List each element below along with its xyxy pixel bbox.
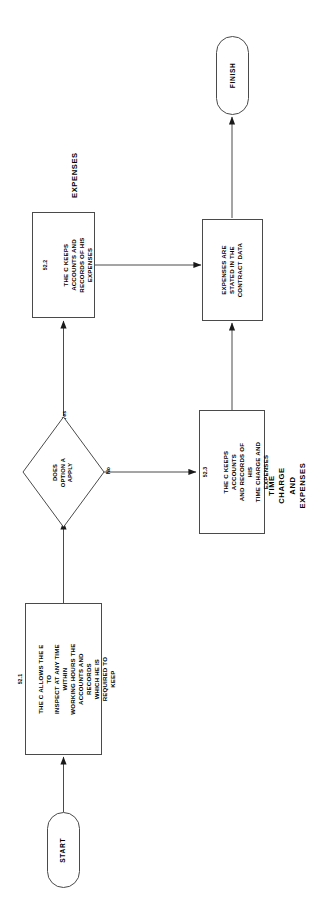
annotation-expenses: EXPENSES [40,140,110,210]
node-step-52-1[interactable]: 52.1 THE C ALLOWS THE E TO INSPECT AT AN… [25,603,102,755]
node-finish-label: FINISH [228,63,237,89]
node-step-52-1-text: 52.1 THE C ALLOWS THE E TO INSPECT AT AN… [9,641,117,716]
node-step-52-3[interactable]: 52.3 THE C KEEPS ACCOUNTS AND RECORDS OF… [199,410,265,534]
flowchart-canvas: FINISH EXPENSES 52.2 THE C KEEPS ACCOUNT… [0,0,315,913]
node-start[interactable]: START [47,812,80,888]
decision-label-wrap: DOES OPTION A APPLY [22,416,105,528]
annotation-expenses-text: EXPENSES [70,152,80,198]
node-finish[interactable]: FINISH [216,36,249,115]
node-step-52-2-text: 52.2 THE C KEEPS ACCOUNTS AND RECORDS OF… [33,237,93,292]
node-step-52-3-text: 52.3 THE C KEEPS ACCOUNTS AND RECORDS OF… [194,440,270,504]
node-step-52-1-body: THE C ALLOWS THE E TO INSPECT AT ANY TIM… [37,643,116,714]
node-step-52-2-body: THE C KEEPS ACCOUNTS AND RECORDS OF HIS … [61,237,92,292]
node-step-52-2[interactable]: 52.2 THE C KEEPS ACCOUNTS AND RECORDS OF… [32,212,95,318]
node-decision-text: DOES OPTION A APPLY [52,457,75,486]
node-contract-data[interactable]: EXPENSES ARE STATED IN THE CONTRACT DATA [202,219,263,321]
edge-label-no-text: No [106,466,113,473]
node-decision[interactable]: DOES OPTION A APPLY [22,416,105,528]
node-start-label: START [59,837,68,862]
edge-label-no: No [101,459,117,481]
annotation-time-charge-text: TIME CHARGE AND EXPENSES [267,460,308,510]
node-step-52-1-ref: 52.1 [17,641,24,716]
node-step-52-3-ref: 52.3 [202,440,209,504]
annotation-time-charge-and-expenses: TIME CHARGE AND EXPENSES [262,430,312,540]
node-step-52-2-ref: 52.2 [42,237,49,292]
node-contract-data-text: EXPENSES ARE STATED IN THE CONTRACT DATA [220,243,244,298]
